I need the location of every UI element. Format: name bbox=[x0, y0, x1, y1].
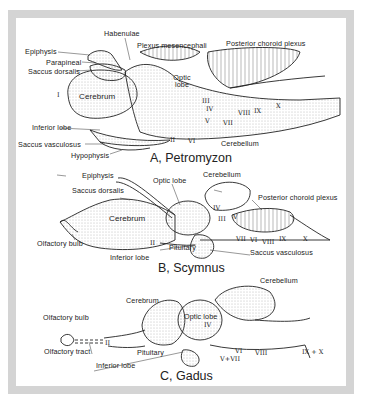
label-optic-lobe: Optic lobe bbox=[171, 74, 193, 88]
nerve-label: VIII bbox=[255, 350, 267, 357]
label-olfactory-bulb: Olfactory bulb bbox=[37, 240, 83, 247]
label-epiphysis: Epiphysis bbox=[82, 172, 114, 179]
label-olfactory-bulb: Olfactory bulb bbox=[43, 314, 89, 321]
nerve-label: III bbox=[202, 98, 210, 105]
nerve-label: II bbox=[150, 240, 155, 247]
label-posterior-choroid-plexus: Posterior choroid plexus bbox=[258, 194, 338, 201]
gadus-brain bbox=[61, 286, 310, 366]
label-cerebrum: Cerebrum bbox=[126, 297, 159, 304]
nerve-label: II bbox=[105, 340, 110, 347]
label-cerebellum: Cerebellum bbox=[260, 277, 298, 284]
label-inferior-lobe: Inferior lobe bbox=[110, 254, 149, 261]
label-inferior-lobe: Inferior lobe bbox=[32, 124, 71, 131]
nerve-label: IX bbox=[254, 108, 261, 115]
label-inferior-lobe: Inferior lobe bbox=[96, 362, 135, 369]
label-saccus-dorsalis: Saccus dorsalis bbox=[72, 187, 124, 194]
label-optic-lobe: Optic lobe bbox=[184, 313, 217, 320]
label-cerebellum: Cerebellum bbox=[203, 171, 241, 178]
label-habenulae: Habenulae bbox=[104, 30, 140, 37]
label-cerebrum: Cerebrum bbox=[79, 93, 115, 101]
nerve-label: VI bbox=[188, 138, 195, 145]
nerve-label: IV bbox=[213, 205, 220, 212]
label-saccus-dorsalis: Saccus dorsalis bbox=[28, 68, 80, 75]
label-cerebellum: Cerebellum bbox=[221, 140, 259, 147]
label-pituitary: Pituitary bbox=[169, 244, 196, 251]
nerve-label: VI bbox=[235, 348, 242, 355]
panel-title-gadus: C, Gadus bbox=[160, 370, 213, 383]
nerve-label: VII bbox=[236, 236, 246, 243]
nerve-label: V+VII bbox=[220, 356, 240, 363]
label-olfactory-tract: Olfactory tract bbox=[44, 348, 90, 355]
nerve-label: VII bbox=[223, 120, 233, 127]
nerve-label: III bbox=[218, 216, 226, 223]
panel-title-scymnus: B, Scymnus bbox=[158, 262, 225, 275]
label-cerebrum: Cerebrum bbox=[109, 215, 145, 223]
label-plexus-mesencephali: Plexus mesencephali bbox=[137, 42, 207, 49]
label-saccus-vasculosus: Saccus vasculosus bbox=[250, 249, 313, 256]
label-pituitary: Pituitary bbox=[137, 349, 164, 356]
nerve-label: I bbox=[57, 92, 60, 99]
nerve-label: VIII bbox=[262, 239, 274, 246]
nerve-label: IX + X bbox=[302, 349, 323, 356]
nerve-label: VI bbox=[250, 237, 257, 244]
nerve-label: IV bbox=[204, 322, 211, 329]
nerve-label: VIII bbox=[238, 110, 250, 117]
label-optic-lobe: Optic lobe bbox=[153, 177, 186, 184]
nerve-label: X bbox=[303, 236, 308, 243]
label-saccus-vasculosus: Saccus vasculosus bbox=[18, 141, 81, 148]
label-posterior-choroid-plexus: Posterior choroid plexus bbox=[226, 40, 306, 47]
panel-title-petromyzon: A, Petromyzon bbox=[150, 152, 232, 165]
label-epiphysis: Epiphysis bbox=[25, 48, 57, 55]
nerve-label: IV bbox=[206, 106, 213, 113]
nerve-label: X bbox=[276, 103, 281, 110]
label-parapineal: Parapineal bbox=[46, 59, 81, 66]
nerve-label: V bbox=[205, 118, 210, 125]
label-hypophysis: Hypophysis bbox=[71, 152, 109, 159]
nerve-label: II bbox=[170, 137, 175, 144]
nerve-label: V bbox=[233, 214, 238, 221]
nerve-label: IX bbox=[279, 236, 286, 243]
